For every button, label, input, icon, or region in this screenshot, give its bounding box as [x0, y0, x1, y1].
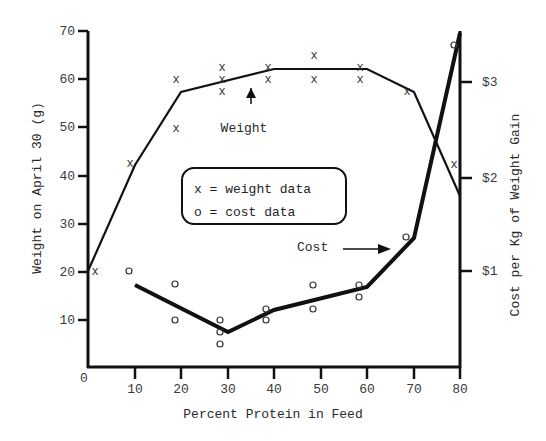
legend-weight: x = weight data: [194, 182, 311, 197]
svg-text:80: 80: [452, 382, 468, 397]
weight-annotation: Weight: [221, 88, 268, 136]
x-ticks: [135, 367, 460, 379]
weight-data-markers: x x x x x x x x x x x x x x x: [91, 49, 457, 279]
svg-text:30: 30: [59, 217, 75, 232]
svg-text:$1: $1: [482, 264, 498, 279]
svg-text:60: 60: [359, 382, 375, 397]
svg-text:Weight: Weight: [221, 121, 268, 136]
legend: x = weight data o = cost data: [182, 168, 346, 224]
left-y-axis-title: Weight on April 30 (g): [30, 102, 45, 274]
right-y-axis-title: Cost per Kg of Weight Gain: [508, 114, 523, 317]
svg-text:$3: $3: [482, 75, 498, 90]
svg-text:10: 10: [59, 313, 75, 328]
svg-text:Cost: Cost: [297, 240, 328, 255]
legend-cost: o = cost data: [194, 205, 296, 220]
svg-text:20: 20: [173, 382, 189, 397]
svg-text:70: 70: [59, 24, 75, 39]
svg-text:0: 0: [80, 371, 88, 386]
svg-text:50: 50: [313, 382, 329, 397]
svg-text:x: x: [172, 122, 179, 136]
left-y-tick-labels: 70 60 50 40 30 20 10: [59, 24, 75, 328]
svg-text:x: x: [310, 73, 317, 87]
svg-text:20: 20: [59, 265, 75, 280]
x-axis-title: Percent Protein in Feed: [183, 407, 362, 422]
svg-text:x: x: [218, 85, 225, 99]
right-y-tick-labels: $3 $2 $1: [482, 75, 498, 279]
svg-text:$2: $2: [482, 171, 498, 186]
svg-text:50: 50: [59, 120, 75, 135]
svg-text:x: x: [264, 73, 271, 87]
right-y-ticks: [460, 82, 472, 271]
svg-text:40: 40: [59, 169, 75, 184]
svg-text:x: x: [91, 265, 98, 279]
cost-annotation: Cost: [297, 240, 391, 255]
svg-text:70: 70: [406, 382, 422, 397]
svg-text:60: 60: [59, 72, 75, 87]
svg-text:40: 40: [266, 382, 282, 397]
svg-text:x: x: [310, 49, 317, 63]
svg-text:x: x: [172, 73, 179, 87]
svg-text:x: x: [126, 157, 133, 171]
svg-text:x: x: [450, 158, 457, 172]
svg-text:10: 10: [127, 382, 143, 397]
chart-canvas: 70 60 50 40 30 20 10 0 10 20 30 40 50 60…: [0, 0, 546, 441]
svg-text:x: x: [356, 73, 363, 87]
svg-text:x: x: [403, 85, 410, 99]
svg-text:30: 30: [220, 382, 236, 397]
